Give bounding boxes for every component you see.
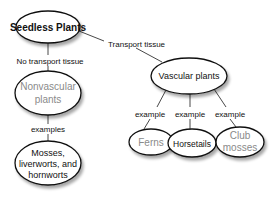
- node-mosses-label-1: Mosses,: [31, 148, 65, 158]
- node-clubmosses-label-2: mosses: [223, 142, 257, 153]
- node-vascular-label: Vascular plants: [159, 71, 220, 81]
- node-mosses-label-3: hornworts: [28, 170, 68, 180]
- edge-vascular-ferns: [157, 90, 166, 107]
- edge-vascular-clubmosses: [214, 89, 226, 107]
- edge-label-example-ferns: example: [135, 110, 166, 119]
- node-clubmosses-label-1: Club: [230, 130, 251, 141]
- edge-label-examples: examples: [31, 125, 65, 134]
- node-ferns: Ferns: [129, 129, 173, 155]
- node-ferns-label: Ferns: [138, 137, 164, 148]
- edge-label-example-clubmosses: example: [215, 110, 246, 119]
- node-horsetails-label: Horsetails: [173, 139, 211, 149]
- node-horsetails: Horsetails: [168, 129, 216, 157]
- edge-root-vascular: [79, 31, 104, 41]
- node-seedless-plants-label: Seedless Plants: [10, 22, 87, 33]
- edge-label-transport: Transport tissue: [108, 40, 166, 49]
- node-vascular-plants: Vascular plants: [151, 58, 227, 94]
- node-nonvascular-plants: Nonvascular plants: [15, 71, 81, 115]
- node-mosses: Mosses, liverworts, and hornworts: [15, 141, 81, 185]
- edge-label-no-transport: No transport tissue: [16, 57, 84, 66]
- edge-label-example-horsetails: example: [175, 110, 206, 119]
- node-club-mosses: Club mosses: [216, 127, 264, 157]
- node-nonvascular-label-2: plants: [35, 94, 62, 105]
- edge-vascular-ferns-2: [144, 119, 150, 129]
- node-seedless-plants: Seedless Plants: [10, 11, 87, 43]
- edge-root-vascular-2: [136, 48, 162, 62]
- edge-vascular-clubmosses-2: [230, 119, 236, 127]
- node-mosses-label-2: liverworts, and: [19, 159, 77, 169]
- node-nonvascular-label-1: Nonvascular: [20, 81, 76, 92]
- concept-map: Transport tissue No transport tissue exa…: [0, 0, 279, 201]
